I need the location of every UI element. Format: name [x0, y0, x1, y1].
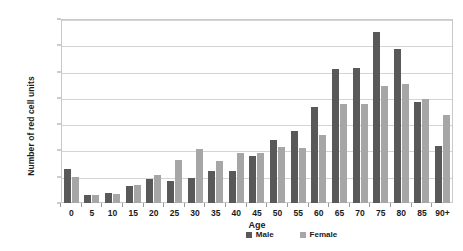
bar-group — [61, 19, 82, 203]
bar-male-80 — [394, 49, 401, 203]
bar-female-25 — [175, 160, 182, 203]
bar-group — [391, 19, 412, 203]
x-axis-tick-label: 10 — [102, 203, 123, 218]
bar-female-60 — [319, 135, 326, 203]
x-axis-tick-label: 50 — [267, 203, 288, 218]
bar-series-group — [61, 19, 453, 203]
bar-female-5 — [92, 195, 99, 203]
bar-group — [226, 19, 247, 203]
x-axis-tick-label: 80 — [391, 203, 412, 218]
bar-group — [102, 19, 123, 203]
y-axis-title: Number of red cell units — [26, 51, 36, 201]
x-axis-tick-label: 70 — [350, 203, 371, 218]
bar-group — [82, 19, 103, 203]
bar-male-70 — [353, 68, 360, 203]
bar-male-90+ — [435, 146, 442, 203]
bar-group — [329, 19, 350, 203]
bar-chart: Number of red cell units 050010001500200… — [0, 0, 463, 251]
bar-group — [350, 19, 371, 203]
x-axis-tick-label: 90+ — [432, 203, 453, 218]
x-axis-tick-label: 60 — [309, 203, 330, 218]
legend-swatch-icon — [246, 232, 252, 238]
x-axis-title: Age — [61, 220, 453, 230]
chart-legend: MaleFemale — [0, 230, 463, 239]
bar-female-15 — [134, 185, 141, 203]
bar-group — [164, 19, 185, 203]
bar-female-90+ — [443, 115, 450, 203]
bar-male-55 — [291, 131, 298, 203]
bar-male-20 — [146, 179, 153, 203]
bar-female-30 — [196, 149, 203, 203]
x-axis-tick-label: 0 — [61, 203, 82, 218]
legend-label: Male — [256, 230, 274, 239]
bar-female-80 — [402, 84, 409, 203]
legend-swatch-icon — [300, 232, 306, 238]
x-axis-tick-label: 5 — [82, 203, 103, 218]
bar-group — [288, 19, 309, 203]
bar-female-10 — [113, 194, 120, 203]
bar-group — [123, 19, 144, 203]
x-axis-tick-label: 65 — [329, 203, 350, 218]
bar-group — [412, 19, 433, 203]
x-axis-tick-label: 55 — [288, 203, 309, 218]
bar-female-20 — [154, 175, 161, 203]
bar-male-45 — [249, 156, 256, 203]
legend-item-female: Female — [300, 230, 338, 239]
bar-female-35 — [216, 161, 223, 203]
bar-female-75 — [381, 86, 388, 203]
bar-male-5 — [84, 195, 91, 203]
x-axis-tick-labels: 051015202530354045505560657075808590+ — [61, 203, 453, 218]
bar-male-15 — [126, 186, 133, 203]
bar-male-30 — [188, 178, 195, 203]
bar-female-0 — [72, 177, 79, 203]
bar-male-25 — [167, 181, 174, 203]
bar-female-40 — [237, 153, 244, 203]
bar-group — [432, 19, 453, 203]
bar-male-10 — [105, 193, 112, 203]
bar-female-55 — [299, 148, 306, 203]
x-axis-tick-label: 35 — [205, 203, 226, 218]
bar-female-70 — [361, 104, 368, 203]
bar-group — [247, 19, 268, 203]
bar-male-65 — [332, 69, 339, 203]
legend-label: Female — [310, 230, 338, 239]
bar-male-85 — [414, 102, 421, 203]
bar-female-45 — [257, 153, 264, 203]
bar-group — [185, 19, 206, 203]
bar-male-60 — [311, 107, 318, 203]
x-axis-tick-label: 75 — [370, 203, 391, 218]
bar-female-85 — [422, 99, 429, 203]
bar-male-0 — [64, 169, 71, 203]
bar-female-65 — [340, 104, 347, 203]
x-axis-tick-label: 85 — [412, 203, 433, 218]
x-axis-tick-label: 45 — [247, 203, 268, 218]
bar-group — [205, 19, 226, 203]
x-axis-tick-label: 20 — [144, 203, 165, 218]
x-axis-tick-label: 40 — [226, 203, 247, 218]
bar-male-75 — [373, 32, 380, 203]
legend-item-male: Male — [246, 230, 274, 239]
bar-group — [370, 19, 391, 203]
x-axis-tick-label: 30 — [185, 203, 206, 218]
bar-group — [144, 19, 165, 203]
bar-male-35 — [208, 171, 215, 203]
bar-group — [309, 19, 330, 203]
bar-male-50 — [270, 140, 277, 203]
bar-male-40 — [229, 171, 236, 203]
bar-female-50 — [278, 147, 285, 203]
bar-group — [267, 19, 288, 203]
x-axis-tick-label: 15 — [123, 203, 144, 218]
x-axis-tick-label: 25 — [164, 203, 185, 218]
